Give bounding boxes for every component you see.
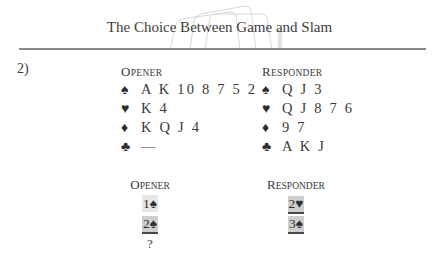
responder-spades-cards: Q J 3 — [282, 81, 324, 97]
heart-icon: ♥ — [121, 99, 141, 118]
label-initial: O — [121, 64, 131, 79]
opener-diamonds: ♦K Q J 4 — [121, 118, 257, 137]
opener-hearts-cards: K 4 — [141, 100, 169, 116]
label-initial: O — [130, 177, 139, 192]
label-rest: ESPONDER — [276, 181, 325, 191]
responder-diamonds: ♦9 7 — [262, 118, 354, 137]
bid-3-spade: 3♠ — [288, 216, 304, 234]
opener-hearts: ♥K 4 — [121, 99, 257, 118]
club-icon: ♣ — [121, 137, 141, 156]
spade-icon: ♠ — [262, 80, 282, 99]
opener-hand: OPENER ♠A K 10 8 7 5 2 ♥K 4 ♦K Q J 4 ♣— — [121, 63, 257, 156]
auction-responder-label: RESPONDER — [256, 176, 336, 194]
opener-spades-cards: A K 10 8 7 5 2 — [141, 81, 257, 97]
responder-spades: ♠Q J 3 — [262, 80, 354, 99]
label-initial: R — [267, 177, 276, 192]
responder-hand: RESPONDER ♠Q J 3 ♥Q J 8 7 6 ♦9 7 ♣A K J — [262, 63, 354, 156]
label-rest: PENER — [131, 68, 163, 78]
responder-clubs: ♣A K J — [262, 137, 354, 156]
responder-hearts: ♥Q J 8 7 6 — [262, 99, 354, 118]
auction-responder-column: RESPONDER 2♥ 3♠ — [256, 176, 336, 234]
bid-question: ? — [147, 236, 153, 251]
auction-opener-column: OPENER 1♠ 2♠ ? — [120, 176, 180, 254]
problem-number: 2) — [17, 61, 29, 77]
club-icon: ♣ — [262, 137, 282, 156]
label-rest: ESPONDER — [271, 68, 323, 78]
label-initial: R — [262, 64, 271, 79]
bid-2-spade: 2♠ — [142, 216, 158, 234]
page-title: The Choice Between Game and Slam — [0, 19, 439, 36]
heart-icon: ♥ — [262, 99, 282, 118]
responder-clubs-cards: A K J — [282, 138, 326, 154]
spade-icon: ♠ — [121, 80, 141, 99]
diamond-icon: ♦ — [262, 118, 282, 137]
opener-hand-label: OPENER — [121, 63, 257, 80]
auction-opener-label: OPENER — [120, 176, 180, 194]
label-rest: PENER — [140, 181, 170, 191]
opener-spades: ♠A K 10 8 7 5 2 — [121, 80, 257, 99]
opener-diamonds-cards: K Q J 4 — [141, 119, 201, 135]
opener-clubs-cards: — — [141, 138, 158, 154]
opener-clubs: ♣— — [121, 137, 257, 156]
responder-hand-label: RESPONDER — [262, 63, 354, 80]
responder-diamonds-cards: 9 7 — [282, 119, 307, 135]
responder-hearts-cards: Q J 8 7 6 — [282, 100, 354, 116]
bid-2-heart: 2♥ — [288, 196, 305, 214]
header-rule — [19, 48, 426, 50]
bid-1-spade: 1♠ — [142, 195, 158, 212]
diamond-icon: ♦ — [121, 118, 141, 137]
